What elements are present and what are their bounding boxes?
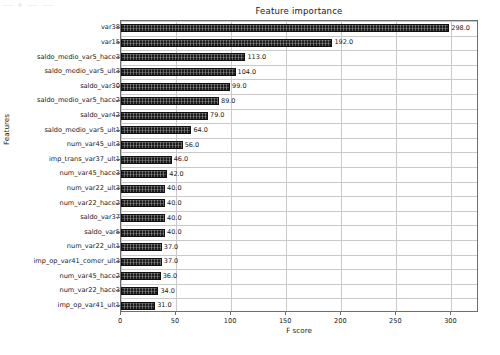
bar[interactable] (121, 272, 161, 280)
bar-value-label: 99.0 (232, 81, 246, 92)
bar[interactable] (121, 39, 332, 47)
bar-value-label: 113.0 (247, 52, 266, 63)
bar[interactable] (121, 287, 158, 295)
bar[interactable] (121, 199, 165, 207)
x-tick-mark (395, 312, 396, 315)
y-tick-label: saldo_medio_var5_ult3 (8, 67, 120, 75)
y-tick-mark (116, 159, 120, 160)
bar[interactable] (121, 83, 230, 91)
bar-value-label: 40.0 (167, 198, 181, 209)
bar-row: 40.0 (121, 196, 477, 211)
y-tick-mark (116, 173, 120, 174)
y-tick-mark (116, 232, 120, 233)
x-tick-label: 300 (444, 317, 457, 325)
y-tick-mark (116, 57, 120, 58)
y-tick-mark (116, 290, 120, 291)
y-tick-label: num_var22_ult1 (8, 242, 120, 250)
bar-value-label: 34.0 (160, 286, 174, 297)
y-tick-label: saldo_medio_var5_hace3 (8, 53, 120, 61)
y-axis-tick-labels: var38var15saldo_medio_var5_hace3saldo_me… (0, 20, 120, 312)
x-tick-label: 0 (118, 317, 122, 325)
y-tick-label: num_var45_hace3 (8, 169, 120, 177)
y-tick-mark (116, 276, 120, 277)
y-tick-mark (116, 115, 120, 116)
y-tick-label: num_var22_hace3 (8, 286, 120, 294)
x-axis-label: F score (120, 326, 478, 335)
bar-value-label: 192.0 (334, 37, 353, 48)
bar-value-label: 40.0 (167, 213, 181, 224)
bar-value-label: 37.0 (164, 256, 178, 267)
y-tick-label: imp_trans_var37_ult1 (8, 155, 120, 163)
x-tick-mark (285, 312, 286, 315)
bar[interactable] (121, 229, 165, 237)
bar[interactable] (121, 214, 165, 222)
bar-row: 34.0 (121, 284, 477, 299)
bar-row: 36.0 (121, 269, 477, 284)
bar-row: 40.0 (121, 211, 477, 226)
y-tick-mark (116, 71, 120, 72)
bar[interactable] (121, 24, 449, 32)
y-tick-label: num_var22_hace2 (8, 199, 120, 207)
y-tick-mark (116, 144, 120, 145)
y-axis-label: Features (2, 114, 11, 145)
x-tick-label: 200 (334, 317, 347, 325)
bar-row: 104.0 (121, 65, 477, 80)
bar[interactable] (121, 258, 162, 266)
x-tick-mark (450, 312, 451, 315)
bar-value-label: 31.0 (157, 300, 171, 311)
bar-value-label: 37.0 (164, 242, 178, 253)
chart-title: Feature importance (120, 6, 478, 16)
bar-row: 113.0 (121, 50, 477, 65)
bar-value-label: 79.0 (210, 110, 224, 121)
bar[interactable] (121, 97, 219, 105)
plot-area: 298.0192.0113.0104.099.089.079.064.056.0… (120, 20, 478, 312)
bar-value-label: 40.0 (167, 227, 181, 238)
bar[interactable] (121, 302, 155, 310)
y-tick-mark (116, 261, 120, 262)
bar[interactable] (121, 156, 172, 164)
bar-row: 37.0 (121, 255, 477, 270)
bar[interactable] (121, 53, 245, 61)
x-tick-label: 50 (171, 317, 179, 325)
bar[interactable] (121, 112, 208, 120)
y-tick-label: saldo_var37 (8, 213, 120, 221)
bar-row: 46.0 (121, 152, 477, 167)
bar[interactable] (121, 243, 162, 251)
x-tick-label: 100 (224, 317, 237, 325)
x-tick-label: 250 (389, 317, 402, 325)
bar-row: 31.0 (121, 298, 477, 312)
bar-row: 192.0 (121, 36, 477, 51)
x-tick-mark (175, 312, 176, 315)
y-tick-label: imp_op_var41_ult1 (8, 301, 120, 309)
y-tick-mark (116, 86, 120, 87)
y-tick-label: saldo_var42 (8, 111, 120, 119)
bar[interactable] (121, 170, 167, 178)
bar-value-label: 64.0 (193, 125, 207, 136)
bar-row: 37.0 (121, 240, 477, 255)
bar-value-label: 104.0 (238, 67, 257, 78)
bar-value-label: 42.0 (169, 169, 183, 180)
chart-figure: Feature importance 298.0192.0113.0104.09… (0, 0, 500, 355)
bar-value-label: 298.0 (451, 23, 470, 34)
y-tick-mark (116, 42, 120, 43)
y-tick-label: var38 (8, 23, 120, 31)
bar-row: 40.0 (121, 182, 477, 197)
bar-value-label: 36.0 (163, 271, 177, 282)
toolbar-artifact (2, 1, 58, 10)
y-tick-label: saldo_medio_var5_hace2 (8, 96, 120, 104)
bar[interactable] (121, 126, 191, 134)
bar[interactable] (121, 141, 183, 149)
bar-value-label: 56.0 (185, 140, 199, 151)
y-tick-label: num_var22_ult3 (8, 184, 120, 192)
x-tick-label: 150 (279, 317, 292, 325)
bar[interactable] (121, 68, 236, 76)
bar-row: 298.0 (121, 21, 477, 36)
y-tick-label: imp_op_var41_comer_ult3 (8, 257, 120, 265)
bar[interactable] (121, 185, 165, 193)
bar-row: 56.0 (121, 138, 477, 153)
y-tick-mark (116, 130, 120, 131)
bar-row: 42.0 (121, 167, 477, 182)
bar-value-label: 89.0 (221, 96, 235, 107)
bar-row: 40.0 (121, 225, 477, 240)
y-tick-label: num_var45_hace2 (8, 272, 120, 280)
